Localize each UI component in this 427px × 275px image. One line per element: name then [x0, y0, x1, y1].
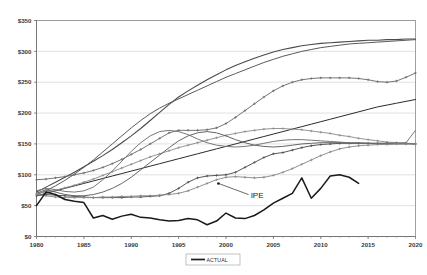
line-chart: $0$50$100$150$200$250$300$350 1980198519… [0, 0, 427, 275]
chart-background [0, 0, 427, 275]
x-tick-label: 1985 [77, 241, 91, 248]
x-tick-label: 2015 [361, 241, 375, 248]
x-tick-label: 2005 [266, 241, 280, 248]
x-tick-label: 2020 [409, 241, 423, 248]
x-tick-label: 1995 [172, 241, 186, 248]
x-tick-label: 2010 [314, 241, 328, 248]
legend-label-actual: ACTUAL [207, 257, 228, 263]
y-tick-label: $350 [18, 17, 32, 24]
y-tick-label: $150 [18, 140, 32, 147]
x-axis-tick-labels: 198019851990199520002005201020152020 [30, 241, 423, 248]
legend: ACTUAL [186, 254, 240, 265]
annotation-point-marker [217, 182, 220, 185]
y-tick-label: $250 [18, 78, 32, 85]
y-tick-label: $300 [18, 48, 32, 55]
y-tick-label: $100 [18, 171, 32, 178]
annotation-label-ipe: IPE [251, 191, 264, 200]
y-tick-label: $50 [21, 202, 32, 209]
y-tick-label: $0 [25, 233, 32, 240]
chart-container: $0$50$100$150$200$250$300$350 1980198519… [0, 0, 427, 275]
y-tick-label: $200 [18, 109, 32, 116]
x-tick-label: 1980 [30, 241, 44, 248]
x-tick-label: 2000 [219, 241, 233, 248]
x-tick-label: 1990 [124, 241, 138, 248]
